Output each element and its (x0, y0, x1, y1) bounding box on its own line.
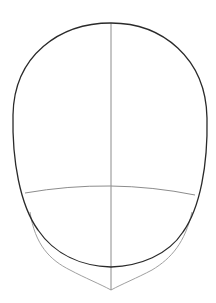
head-outline (13, 23, 207, 267)
horizontal-brow-guide (25, 186, 195, 195)
face-drawing-canvas (0, 0, 216, 303)
